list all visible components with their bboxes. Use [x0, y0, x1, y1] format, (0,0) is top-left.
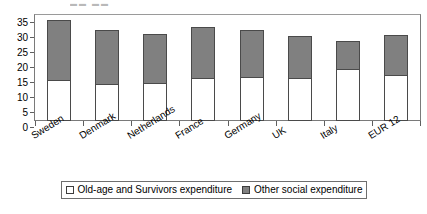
chart-legend: Old-age and Survivors expenditure Other … [61, 181, 367, 199]
bar-italy [336, 41, 360, 121]
x-tick-mark [324, 121, 325, 126]
x-axis-label-italy: Italy [318, 122, 339, 141]
y-tick-label-25: 25 [0, 48, 28, 58]
legend-item-old-age: Old-age and Survivors expenditure [66, 185, 233, 195]
bar-segment-other-social [143, 34, 167, 84]
x-tick-mark [131, 121, 132, 126]
x-tick-mark [276, 121, 277, 126]
legend-label-old-age: Old-age and Survivors expenditure [78, 185, 233, 195]
y-tick-label-35: 35 [0, 18, 28, 28]
bar-segment-other-social [95, 30, 119, 85]
x-tick-mark [372, 121, 373, 126]
bar-uk [288, 36, 312, 121]
x-tick-mark [35, 121, 36, 126]
bar-germany [240, 30, 264, 121]
bar-sweden [47, 20, 71, 121]
y-tick-label-10: 10 [0, 93, 28, 103]
bar-segment-other-social [288, 36, 312, 79]
white-square-icon [66, 186, 74, 194]
bar-chart: ▬▬ ▬▬ 35 30 25 20 15 10 5 0 SwedenDenmar… [0, 0, 427, 214]
y-tick-label-5: 5 [0, 108, 28, 118]
bar-segment-other-social [47, 20, 71, 80]
clipped-header-text: ▬▬ ▬▬ [70, 0, 190, 6]
y-axis: 35 30 25 20 15 10 5 0 [0, 8, 32, 128]
bar-segment-old-age [191, 78, 215, 121]
y-tick-label-0: 0 [0, 123, 28, 133]
bar-france [191, 27, 215, 121]
bar-segment-old-age [336, 69, 360, 121]
y-tick-label-15: 15 [0, 78, 28, 88]
bar-denmark [95, 30, 119, 121]
y-tick-label-20: 20 [0, 63, 28, 73]
bar-segment-other-social [384, 35, 408, 75]
bar-segment-other-social [336, 41, 360, 70]
x-tick-mark [179, 121, 180, 126]
bar-segment-old-age [288, 78, 312, 120]
bar-eur-12 [384, 35, 408, 121]
gray-square-icon [242, 186, 250, 194]
bar-segment-other-social [191, 27, 215, 78]
y-tick-label-30: 30 [0, 33, 28, 43]
bar-segment-other-social [240, 30, 264, 78]
legend-item-other-social: Other social expenditure [242, 185, 362, 195]
x-axis-label-uk: UK [270, 124, 288, 141]
x-tick-mark [228, 121, 229, 126]
x-tick-mark [420, 121, 421, 126]
plot-area [34, 14, 421, 121]
legend-label-other-social: Other social expenditure [254, 185, 362, 195]
x-tick-mark [83, 121, 84, 126]
